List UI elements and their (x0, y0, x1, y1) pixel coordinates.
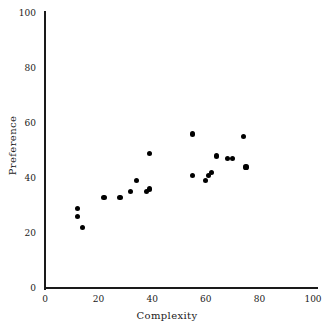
data-point (241, 134, 246, 139)
data-point (190, 173, 195, 178)
data-point (190, 131, 195, 136)
y-axis-title: Preference (7, 101, 18, 191)
data-point (80, 225, 85, 230)
y-tick-label: 100 (12, 9, 36, 18)
y-tick-label: 20 (12, 229, 36, 238)
x-axis-title: Complexity (0, 310, 334, 321)
data-point (230, 156, 235, 161)
x-tick-label: 0 (32, 295, 58, 304)
data-point (147, 151, 152, 156)
data-point (214, 153, 219, 158)
scatter-plot-figure: 020406080100 020406080100 Complexity Pre… (0, 0, 334, 331)
data-point (147, 186, 152, 191)
x-tick-label: 20 (86, 295, 112, 304)
y-tick-label: 80 (12, 64, 36, 73)
data-point (75, 206, 80, 211)
data-point (209, 170, 214, 175)
x-tick-label: 60 (193, 295, 219, 304)
data-point (75, 214, 80, 219)
data-point (117, 195, 122, 200)
data-point (203, 178, 208, 183)
data-point (128, 189, 133, 194)
data-point (243, 164, 248, 169)
data-point (101, 195, 106, 200)
data-point (134, 178, 139, 183)
y-tick-label: 0 (12, 284, 36, 293)
plot-area (45, 13, 313, 288)
x-tick-label: 100 (300, 295, 326, 304)
x-tick-label: 40 (139, 295, 165, 304)
x-tick-label: 80 (246, 295, 272, 304)
